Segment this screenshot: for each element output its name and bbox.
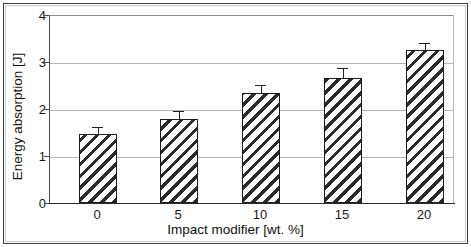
errorbar-stem-10 [261, 86, 262, 93]
gridline-3 [50, 63, 453, 64]
bar-10 [242, 93, 280, 203]
plot-area [49, 15, 454, 203]
x-axis-title: Impact modifier [wt. %] [0, 222, 471, 237]
errorbar-stem-5 [179, 112, 180, 119]
errorbar-cap-10 [255, 85, 266, 86]
bar-15 [324, 78, 362, 203]
bar-0 [79, 134, 117, 203]
errorbar-stem-0 [98, 128, 99, 134]
y-tick-label-4: 4 [12, 9, 46, 22]
y-tick-mark-1 [44, 156, 49, 157]
y-axis-title: Energy absorption [J] [10, 22, 25, 212]
errorbar-cap-15 [337, 68, 348, 69]
x-tick-label-10: 10 [237, 208, 283, 221]
chart-figure: 4 3 2 1 0 Energy absorption [J] 0 5 10 1… [0, 0, 471, 247]
x-tick-label-15: 15 [319, 208, 365, 221]
y-tick-mark-0 [44, 203, 49, 204]
y-tick-mark-2 [44, 109, 49, 110]
errorbar-stem-20 [425, 44, 426, 50]
errorbar-cap-20 [419, 43, 430, 44]
bar-5 [160, 119, 198, 203]
x-tick-label-0: 0 [74, 208, 120, 221]
errorbar-stem-15 [343, 69, 344, 77]
errorbar-cap-0 [92, 127, 103, 128]
x-tick-label-5: 5 [155, 208, 201, 221]
x-tick-label-20: 20 [401, 208, 447, 221]
y-tick-mark-3 [44, 62, 49, 63]
x-axis-line [49, 203, 455, 204]
bar-20 [406, 50, 444, 203]
errorbar-cap-5 [173, 111, 184, 112]
y-tick-mark-4 [44, 15, 49, 16]
